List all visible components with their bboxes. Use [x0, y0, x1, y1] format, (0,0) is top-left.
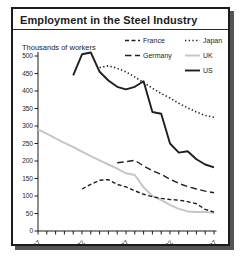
x-tick-label: 1967 [27, 238, 42, 244]
legend-label-japan: Japan [203, 37, 222, 45]
chart-title: Employment in the Steel Industry [13, 9, 228, 30]
y-tick-label: 450 [22, 70, 33, 77]
series-line-germany [117, 160, 214, 193]
x-tick-label: 1982 [159, 238, 174, 244]
legend-label-uk: UK [203, 52, 213, 59]
y-tick-label: 300 [22, 122, 33, 129]
series-line-japan [100, 66, 214, 118]
y-tick-label: 500 [22, 52, 33, 59]
y-axis-unit-label: Thousands of workers [22, 43, 96, 52]
y-tick-label: 0 [29, 227, 33, 234]
y-tick-label: 100 [22, 192, 33, 199]
legend-label-france: France [143, 37, 165, 44]
y-tick-label: 350 [22, 105, 33, 112]
series-line-france [82, 180, 214, 213]
y-tick-label: 50 [26, 210, 34, 217]
legend-label-us: US [203, 67, 213, 74]
chart-area: Thousands of workers05010015020025030035… [13, 35, 228, 244]
y-tick-label: 200 [22, 157, 33, 164]
y-tick-label: 400 [22, 87, 33, 94]
x-tick-label: 1987 [203, 238, 218, 244]
chart-svg: Thousands of workers05010015020025030035… [13, 35, 228, 244]
legend-label-germany: Germany [143, 52, 172, 60]
x-tick-label: 1972 [71, 238, 86, 244]
y-tick-label: 150 [22, 175, 33, 182]
page: Employment in the Steel Industry Thousan… [0, 0, 245, 263]
series-line-uk [38, 130, 214, 213]
chart-card: Employment in the Steel Industry Thousan… [11, 7, 230, 246]
y-tick-label: 250 [22, 140, 33, 147]
x-tick-label: 1977 [115, 238, 130, 244]
